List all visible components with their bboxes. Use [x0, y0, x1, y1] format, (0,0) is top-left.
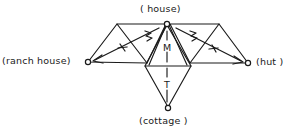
left-wing-inner-edge-a — [117, 24, 147, 63]
node-label-house: ( house) — [140, 3, 181, 14]
axis-label-m: M — [163, 42, 171, 53]
right-vector-rotated-m — [190, 31, 197, 41]
geometric-diagram-figure — [0, 0, 286, 133]
node-label-ranch-house: (ranch house) — [2, 55, 71, 66]
diagram-canvas: ( house) (ranch house) (hut ) (cottage )… — [0, 0, 286, 133]
node-label-hut: (hut ) — [256, 56, 283, 67]
wing-polygons — [88, 24, 248, 107]
node-label-cottage: (cottage ) — [139, 115, 188, 126]
right-wing-inner-edge-a — [190, 24, 219, 63]
node-marker-hut — [245, 60, 250, 65]
node-marker-house — [164, 21, 169, 26]
house-converging-line-right — [169, 25, 187, 65]
node-marker-ranch-house — [85, 59, 90, 64]
node-marker-cottage — [165, 105, 170, 110]
left-vector-rotated-m — [145, 31, 152, 41]
axis-label-t: T — [164, 79, 170, 90]
